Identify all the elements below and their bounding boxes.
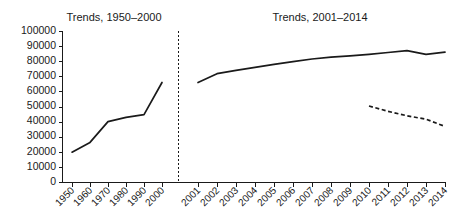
x-tick-label: 1970 [89,184,113,208]
left-trend-line [72,83,162,153]
x-tick-label: 1950 [53,184,77,208]
right-trend-line-solid [198,51,445,83]
y-tick-label: 50000 [27,99,56,111]
y-tick-label: 0 [50,175,56,187]
y-tick-label: 20000 [27,145,56,157]
x-tick-label: 2008 [312,184,336,208]
y-tick-label: 70000 [27,69,56,81]
chart-figure: Trends, 1950–2000 Trends, 2001–2014 0 10… [0,0,459,223]
x-tick-label: 1990 [125,184,149,208]
right-panel-title: Trends, 2001–2014 [273,11,368,23]
x-tick-label: 2004 [236,184,260,208]
y-tick-label: 40000 [27,114,56,126]
x-tick-label: 2007 [293,184,317,208]
x-tick-label: 2005 [255,184,279,208]
x-tick-label: 2013 [407,184,431,208]
y-tick-label: 30000 [27,129,56,141]
chart-svg: Trends, 1950–2000 Trends, 2001–2014 0 10… [0,0,459,223]
x-tick-label: 2009 [331,184,355,208]
x-tick-label: 2012 [388,184,412,208]
x-tick-label: 2001 [179,184,203,208]
y-tick-label: 100000 [21,24,56,36]
y-tick-label: 80000 [27,54,56,66]
x-tick-label: 2003 [217,184,241,208]
y-axis-labels: 0 10000 20000 30000 40000 50000 60000 70… [21,24,56,187]
x-tick-label: 2011 [369,184,392,207]
left-panel-title: Trends, 1950–2000 [67,11,162,23]
y-axis [59,31,63,183]
x-tick-label: 2010 [350,184,374,208]
x-axis-labels-left: 1950 1960 1970 1980 1990 2000 [53,184,167,208]
x-tick-label: 2006 [274,184,298,208]
right-trend-line-dashed [369,106,445,126]
y-tick-label: 10000 [27,160,56,172]
y-tick-label: 60000 [27,84,56,96]
x-tick-label: 1960 [71,184,95,208]
x-tick-label: 2000 [143,184,167,208]
y-tick-label: 90000 [27,39,56,51]
x-tick-label: 2014 [426,184,450,208]
x-tick-label: 2002 [198,184,222,208]
x-tick-label: 1980 [107,184,131,208]
x-axis-labels-right: 2001 2002 2003 2004 2005 2006 2007 2008 … [179,184,450,208]
